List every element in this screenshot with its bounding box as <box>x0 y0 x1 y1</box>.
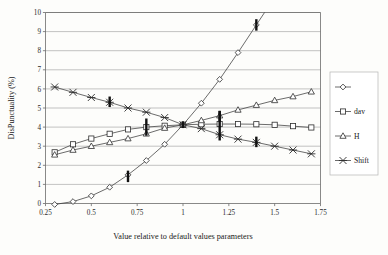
data-point-H <box>308 89 314 95</box>
data-point-dav <box>290 124 295 129</box>
y-tick-label: 1 <box>37 181 41 189</box>
data-point-dav <box>235 121 240 126</box>
y-tick-label: 3 <box>37 143 41 151</box>
data-point-dav <box>254 122 259 127</box>
legend-label: H <box>354 132 360 141</box>
series-markers <box>51 22 316 207</box>
data-point-Shift <box>289 147 297 154</box>
legend-label: Shift <box>354 156 370 165</box>
data-point-unnamed <box>52 202 58 208</box>
data-point-Shift <box>142 109 150 116</box>
data-point-dav <box>125 127 130 132</box>
data-point-unnamed <box>217 76 223 82</box>
x-tick-label: 1 <box>181 209 185 217</box>
y-tick-label: 7 <box>37 66 41 74</box>
x-tick-label: 0.5 <box>87 209 96 217</box>
y-tick-label: 10 <box>34 9 42 17</box>
data-point-Shift <box>234 136 242 143</box>
data-point-Shift <box>51 83 59 90</box>
x-tick-label: 0.25 <box>39 209 52 217</box>
data-point-Shift <box>271 143 279 150</box>
legend-marker-dav <box>340 109 345 114</box>
data-point-Shift <box>69 89 77 96</box>
y-tick-label: 9 <box>37 28 41 36</box>
data-point-dav <box>107 131 112 136</box>
data-point-Shift <box>307 150 315 157</box>
data-point-dav <box>89 136 94 141</box>
x-axis-title: Value relative to default values paramet… <box>113 232 252 241</box>
y-tick-label: 0 <box>37 200 41 208</box>
data-point-dav <box>309 125 314 130</box>
data-point-unnamed <box>107 184 113 190</box>
data-point-Shift <box>87 94 95 101</box>
data-point-unnamed <box>88 193 94 199</box>
x-tick-label: 1.75 <box>314 209 327 217</box>
x-tick-label: 0.75 <box>131 209 144 217</box>
legend: davHShift <box>330 72 378 175</box>
error-bars <box>110 19 257 182</box>
chart-canvas: 012345678910 0.250.50.7511.251.51.75 Dis… <box>0 0 388 255</box>
data-point-dav <box>272 122 277 127</box>
y-tick-label: 2 <box>37 162 41 170</box>
legend-label: dav <box>354 107 365 116</box>
x-axis-tick-labels: 0.250.50.7511.251.51.75 <box>39 209 327 217</box>
y-tick-label: 6 <box>37 86 41 94</box>
chart-figure: 012345678910 0.250.50.7511.251.51.75 Dis… <box>0 0 388 255</box>
data-point-Shift <box>124 105 132 112</box>
y-tick-label: 4 <box>37 124 41 132</box>
x-tick-label: 1.5 <box>270 209 279 217</box>
series-lines <box>55 13 312 205</box>
data-point-Shift <box>161 114 169 121</box>
y-tick-label: 8 <box>37 47 41 55</box>
y-axis-tick-labels: 012345678910 <box>34 9 42 208</box>
y-axis-title: DisPunctuality (%) <box>7 76 16 139</box>
x-tick-label: 1.25 <box>223 209 236 217</box>
gridlines <box>46 13 321 185</box>
y-tick-label: 5 <box>37 105 41 113</box>
